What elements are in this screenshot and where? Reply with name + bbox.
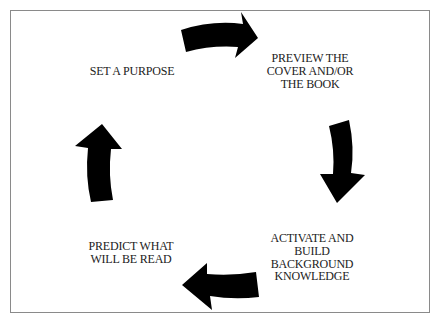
arrow-down-icon: [320, 120, 365, 203]
cycle-arrows: [0, 0, 438, 320]
step-label-line: PREVIEW THE: [255, 52, 365, 65]
step-preview-cover: PREVIEW THE COVER AND/OR THE BOOK: [255, 52, 365, 90]
arrow-left-icon: [182, 263, 259, 310]
step-label-line: BUILD: [257, 245, 367, 258]
step-label-line: PREDICT WHAT: [76, 240, 186, 253]
step-predict: PREDICT WHAT WILL BE READ: [76, 240, 186, 266]
step-label-line: SET A PURPOSE: [72, 65, 192, 78]
step-label-line: ACTIVATE AND: [257, 232, 367, 245]
arrow-up-icon: [75, 124, 122, 202]
step-label-line: WILL BE READ: [76, 253, 186, 266]
arrow-right-icon: [181, 12, 258, 58]
step-label-line: COVER AND/OR: [255, 65, 365, 78]
step-activate-knowledge: ACTIVATE AND BUILD BACKGROUND KNOWLEDGE: [257, 232, 367, 283]
step-set-purpose: SET A PURPOSE: [72, 65, 192, 78]
step-label-line: KNOWLEDGE: [257, 270, 367, 283]
step-label-line: THE BOOK: [255, 78, 365, 91]
